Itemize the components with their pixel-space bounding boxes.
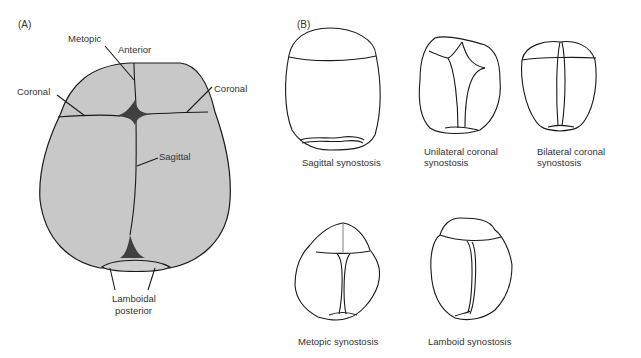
caption-unilateral-coronal: Unilateral coronal synostosis xyxy=(424,146,498,168)
skull-metopic-synostosis xyxy=(295,223,380,320)
label-coronal-right: Coronal xyxy=(214,83,247,94)
diagram-canvas xyxy=(0,0,641,358)
caption-lamboid-synostosis: Lamboid synostosis xyxy=(428,336,511,347)
panel-a-label: (A) xyxy=(18,19,31,30)
skull-sagittal-synostosis xyxy=(286,28,380,150)
skull-unilateral-coronal-synostosis xyxy=(419,37,500,134)
caption-metopic-synostosis: Metopic synostosis xyxy=(298,336,378,347)
label-coronal-left: Coronal xyxy=(17,86,50,97)
label-sagittal: Sagittal xyxy=(159,151,191,162)
panel-b-label: (B) xyxy=(297,19,310,30)
label-anterior: Anterior xyxy=(118,44,151,55)
label-posterior: posterior xyxy=(115,305,152,316)
caption-bilateral-coronal: Bilateral coronal synostosis xyxy=(537,146,605,168)
label-lamboidal: Lamboidal xyxy=(112,293,156,304)
skull-bilateral-coronal-synostosis xyxy=(522,42,597,131)
caption-sagittal-synostosis: Sagittal synostosis xyxy=(302,157,381,168)
skull-lamboid-synostosis xyxy=(431,218,512,320)
label-metopic: Metopic xyxy=(68,33,101,44)
